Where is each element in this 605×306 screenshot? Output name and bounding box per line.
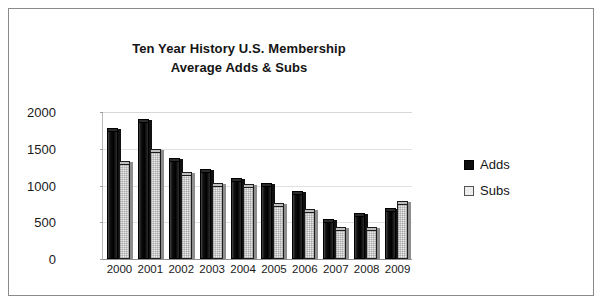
chart-title-line-1: Ten Year History U.S. Membership (49, 39, 429, 58)
bar-top-face (212, 183, 223, 187)
bar-body (138, 122, 149, 259)
bar-2004-adds[interactable] (231, 178, 242, 259)
bar-side-face (377, 228, 380, 259)
bar-2001-subs[interactable] (150, 149, 161, 259)
bar-body (304, 212, 315, 259)
bar-2004-subs[interactable] (243, 184, 254, 259)
x-axis-tick-label: 2007 (323, 263, 349, 275)
bar-2001-adds[interactable] (138, 119, 149, 259)
bar-2002-subs[interactable] (181, 172, 192, 259)
bar-2009-subs[interactable] (397, 201, 408, 259)
bar-group (288, 112, 319, 259)
bar-2000-adds[interactable] (107, 128, 118, 259)
bar-group (258, 112, 289, 259)
bar-side-face (284, 204, 287, 259)
bar-top-face (335, 227, 346, 231)
bar-top-face (181, 172, 192, 176)
x-axis-tick-label: 2005 (261, 263, 287, 275)
bar-2000-subs[interactable] (119, 161, 130, 259)
bar-group (350, 112, 381, 259)
bar-top-face (150, 149, 161, 153)
bar-top-face (138, 119, 149, 123)
legend-item-adds: Adds (464, 157, 510, 172)
bar-top-face (107, 128, 118, 132)
bar-body (354, 216, 365, 259)
bar-group (196, 112, 227, 259)
legend-label-adds: Adds (480, 157, 510, 172)
bar-2006-subs[interactable] (304, 209, 315, 259)
y-axis-tick-label: 1500 (12, 141, 61, 156)
bar-2006-adds[interactable] (292, 191, 303, 259)
bar-side-face (223, 184, 226, 259)
bar-top-face (292, 191, 303, 195)
legend-swatch-subs-icon (464, 186, 474, 196)
bar-body (273, 206, 284, 259)
chart-area: 2000200120022003200420052006200720082009… (61, 105, 416, 280)
y-axis-tick-label: 2000 (12, 105, 61, 120)
bar-side-face (254, 185, 257, 259)
bar-group (381, 112, 412, 259)
y-axis-tick-label: 1000 (12, 178, 61, 193)
bar-2003-adds[interactable] (200, 169, 211, 259)
bar-top-face (323, 219, 334, 223)
chart-title-line-2: Average Adds & Subs (49, 58, 429, 77)
bar-top-face (200, 169, 211, 173)
bar-side-face (192, 173, 195, 259)
bar-group (227, 112, 258, 259)
bar-2009-adds[interactable] (385, 208, 396, 259)
bar-group (103, 112, 134, 259)
y-axis-tick-mark (100, 259, 103, 260)
bar-top-face (273, 203, 284, 207)
bar-body (385, 211, 396, 259)
bar-side-face (408, 202, 411, 259)
bar-body (243, 187, 254, 259)
bar-top-face (354, 213, 365, 217)
x-axis-tick-label: 2006 (292, 263, 318, 275)
bar-2008-subs[interactable] (366, 227, 377, 259)
bar-top-face (169, 158, 180, 162)
x-axis-tick-label: 2002 (168, 263, 194, 275)
bar-side-face (346, 228, 349, 259)
legend-swatch-adds-icon (464, 160, 474, 170)
bar-body (200, 172, 211, 259)
bar-top-face (385, 208, 396, 212)
bar-2008-adds[interactable] (354, 213, 365, 259)
bar-body (231, 181, 242, 259)
bar-top-face (366, 227, 377, 231)
bar-group (134, 112, 165, 259)
bar-body (150, 152, 161, 259)
bar-side-face (315, 210, 318, 259)
legend-label-subs: Subs (480, 183, 510, 198)
bar-body (323, 222, 334, 259)
bar-2007-subs[interactable] (335, 227, 346, 259)
x-axis-tick-label: 2001 (138, 263, 164, 275)
bar-2005-subs[interactable] (273, 203, 284, 259)
chart-title: Ten Year History U.S. Membership Average… (49, 39, 429, 77)
bar-top-face (261, 183, 272, 187)
y-axis-tick-label: 500 (12, 215, 61, 230)
chart-frame: Ten Year History U.S. Membership Average… (8, 8, 594, 296)
bar-2005-adds[interactable] (261, 183, 272, 259)
legend-item-subs: Subs (464, 183, 510, 198)
bar-2003-subs[interactable] (212, 183, 223, 259)
x-axis-tick-label: 2003 (199, 263, 225, 275)
x-axis-tick-label: 2000 (107, 263, 133, 275)
plot-area: 2000200120022003200420052006200720082009 (102, 112, 412, 260)
bar-top-face (119, 161, 130, 165)
bar-top-face (304, 209, 315, 213)
x-axis-tick-label: 2008 (354, 263, 380, 275)
y-axis-tick-label: 0 (12, 252, 61, 267)
bar-body (261, 186, 272, 259)
bar-body (397, 204, 408, 259)
bar-body (119, 164, 130, 259)
bar-side-face (161, 150, 164, 259)
chart-legend: Adds Subs (464, 157, 510, 209)
bar-top-face (231, 178, 242, 182)
bar-2002-adds[interactable] (169, 158, 180, 259)
bar-body (292, 194, 303, 259)
bar-top-face (243, 184, 254, 188)
bar-side-face (130, 162, 133, 259)
bar-body (107, 131, 118, 259)
bar-body (169, 161, 180, 259)
bar-2007-adds[interactable] (323, 219, 334, 259)
